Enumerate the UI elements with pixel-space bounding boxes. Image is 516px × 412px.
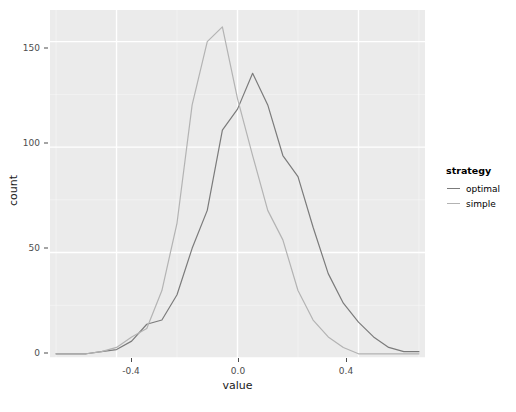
plot-area [50,10,425,358]
legend-item-optimal[interactable]: optimal [446,181,516,196]
y-tick-label-100: 100 [23,138,40,148]
legend-label-simple: simple [466,199,496,209]
y-tick-label-50: 50 [29,243,40,253]
frequency-polygon-chart: 150 100 50 0 -0.4 0.0 0.4 value count st… [0,0,516,412]
legend-key-optimal-icon [446,183,461,194]
x-tick-mark-neg04 [131,358,132,362]
x-tick-label-00: 0.0 [231,366,245,376]
x-tick-label-neg04: -0.4 [122,366,140,376]
legend-key-simple-icon [446,198,461,209]
x-axis-title: value [50,379,425,392]
y-tick-mark-100 [44,143,48,144]
legend-label-optimal: optimal [466,184,500,194]
plot-panel [50,10,425,358]
x-tick-label-04: 0.4 [339,366,353,376]
y-tick-label-150: 150 [23,43,40,53]
legend: strategy optimal simple [446,165,516,211]
y-tick-mark-0 [44,353,48,354]
x-tick-mark-04 [346,358,347,362]
legend-title: strategy [446,165,516,176]
y-tick-mark-50 [44,248,48,249]
y-tick-label-0: 0 [34,348,40,358]
y-tick-mark-150 [44,48,48,49]
x-tick-mark-00 [238,358,239,362]
y-axis-title: count [7,161,20,221]
legend-item-simple[interactable]: simple [446,196,516,211]
